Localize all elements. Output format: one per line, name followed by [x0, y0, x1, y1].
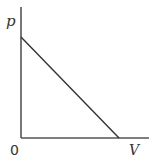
pv-diagram: p V 0 [0, 0, 157, 163]
origin-label: 0 [10, 142, 19, 158]
y-axis-label: p [6, 12, 16, 30]
pv-line [21, 37, 119, 138]
x-axis-label: V [129, 142, 141, 158]
